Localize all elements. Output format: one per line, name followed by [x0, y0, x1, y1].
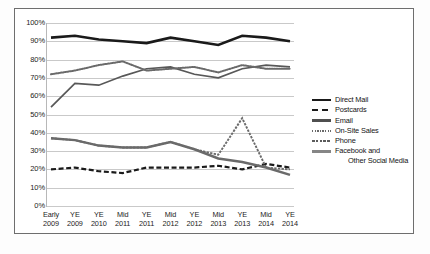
legend-text: Phone — [335, 136, 356, 146]
series-line — [51, 65, 290, 107]
legend-swatch-icon — [312, 116, 331, 126]
y-axis-tick-label: 90% — [30, 37, 45, 45]
y-axis-tick-label: 60% — [30, 92, 45, 100]
y-axis-tick-label: 40% — [30, 129, 45, 137]
legend-text: On-Site Sales — [335, 126, 379, 136]
y-axis-tick-label: 0% — [34, 202, 45, 210]
legend-label: Phone — [335, 136, 356, 145]
legend-label: Direct Mail — [335, 95, 368, 104]
legend-label: On-Site Sales — [335, 126, 379, 135]
legend-item[interactable]: Email — [312, 116, 416, 126]
y-axis-tick-label: 80% — [30, 56, 45, 64]
legend-label: Email — [335, 116, 353, 125]
y-axis-tick-label: 70% — [30, 74, 45, 82]
legend-text: Facebook andOther Social Media — [335, 146, 408, 165]
y-axis-tick-label: 30% — [30, 147, 45, 155]
legend-item[interactable]: Phone — [312, 136, 416, 146]
y-axis-tick-label: 10% — [30, 184, 45, 192]
gridline — [47, 206, 294, 207]
legend-swatch-icon — [312, 95, 331, 105]
legend-label: Facebook and — [335, 146, 380, 155]
legend-text: Email — [335, 116, 353, 126]
legend-item[interactable]: On-Site Sales — [312, 126, 416, 136]
legend-label-continued: Other Social Media — [335, 156, 408, 166]
legend-item[interactable]: Facebook andOther Social Media — [312, 146, 416, 165]
chart-legend: Direct MailPostcardsEmailOn-Site SalesPh… — [312, 95, 416, 166]
legend-swatch-icon — [312, 126, 331, 136]
y-axis-tick-label: 20% — [30, 165, 45, 173]
series-lines — [47, 23, 294, 206]
legend-swatch-icon — [312, 136, 331, 146]
legend-swatch-icon — [312, 105, 331, 115]
legend-swatch-icon — [312, 146, 331, 156]
legend-item[interactable]: Direct Mail — [312, 95, 416, 105]
chart-figure: 0%10%20%30%40%50%60%70%80%90%100% Early2… — [0, 0, 430, 254]
legend-text: Direct Mail — [335, 95, 368, 105]
plot-area — [47, 23, 294, 206]
x-axis-tick-label: YE2014 — [274, 211, 306, 228]
legend-item[interactable]: Postcards — [312, 105, 416, 115]
y-axis-tick-label: 100% — [26, 19, 45, 27]
series-line — [51, 61, 290, 74]
y-axis-tick-label: 50% — [30, 111, 45, 119]
series-line — [51, 36, 290, 45]
legend-text: Postcards — [335, 105, 367, 115]
legend-label: Postcards — [335, 105, 367, 114]
